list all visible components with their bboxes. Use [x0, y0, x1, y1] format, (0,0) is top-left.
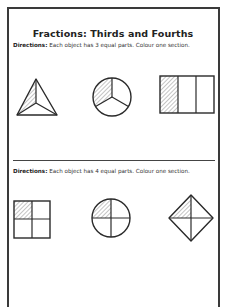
- shaded-third: [160, 76, 178, 113]
- circle-thirds-shape[interactable]: [93, 78, 131, 116]
- rectangle-thirds-shape[interactable]: [160, 76, 214, 113]
- shaded-fourth: [14, 201, 32, 219]
- diamond-fourths-shape[interactable]: [169, 195, 213, 241]
- circle-fourths-shape[interactable]: [92, 199, 130, 237]
- square-fourths-shape[interactable]: [14, 201, 50, 238]
- triangle-thirds-shape[interactable]: [17, 79, 57, 115]
